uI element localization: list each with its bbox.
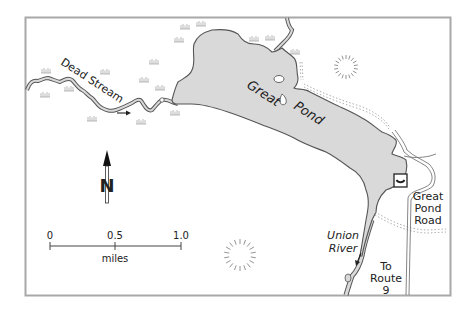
island [160, 98, 164, 102]
union-river-label-2: River [329, 242, 359, 255]
scale-tick-label: 1.0 [173, 230, 189, 241]
scale-unit-label: miles [102, 253, 129, 264]
boat-launch-icon [394, 174, 407, 187]
union-river-label-1: Union [327, 229, 359, 242]
map-canvas: N 0 0.5 1.0 miles Dead Stream Great Pond… [0, 0, 474, 311]
island [274, 76, 284, 83]
scale-tick-label: 0.5 [107, 230, 123, 241]
route-label-3: 9 [383, 284, 390, 297]
road-label-3: Road [414, 214, 442, 227]
north-arrow-letter: N [99, 175, 114, 196]
scale-tick-label: 0 [47, 230, 53, 241]
